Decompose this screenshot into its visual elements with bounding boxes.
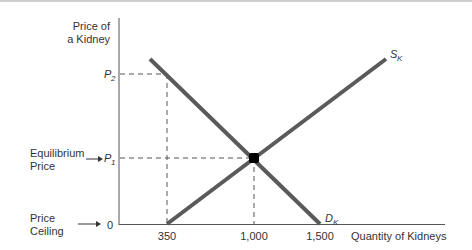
x-tick-1000: 1,000 <box>240 230 268 242</box>
x-tick-1500: 1,500 <box>306 230 334 242</box>
demand-curve <box>150 59 320 224</box>
equilibrium-annotation-line2: Price <box>30 160 55 172</box>
ceiling-annotation-line2: Ceiling <box>30 225 64 237</box>
demand-curve-label: D <box>325 212 333 224</box>
supply-demand-chart: Price of a Kidney P 2 P 1 0 Equilibrium … <box>0 0 472 250</box>
zero-tick-label: 0 <box>107 219 113 231</box>
demand-curve-subscript: K <box>333 218 339 227</box>
x-tick-350: 350 <box>158 230 176 242</box>
x-axis-label: Quantity of Kidneys <box>351 230 447 242</box>
p1-tick-subscript: 1 <box>111 158 115 167</box>
supply-curve <box>167 59 386 224</box>
p2-tick-subscript: 2 <box>110 74 116 83</box>
supply-curve-subscript: K <box>397 54 403 63</box>
ceiling-annotation-line1: Price <box>30 212 55 224</box>
y-axis-label-line2: a Kidney <box>67 33 110 45</box>
y-axis-label-line1: Price of <box>73 20 111 32</box>
ceiling-arrowhead-icon <box>96 221 101 227</box>
equilibrium-point <box>249 153 259 163</box>
equilibrium-annotation-line1: Equilibrium <box>30 147 84 159</box>
equilibrium-arrowhead-icon <box>98 156 103 162</box>
